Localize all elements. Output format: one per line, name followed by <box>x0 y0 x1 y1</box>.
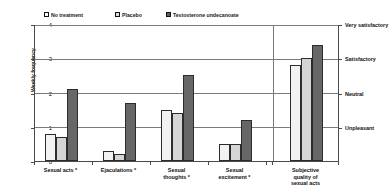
chart-legend: No treatment Placebo Testosterone undeca… <box>40 8 330 21</box>
bar-4-0 <box>290 65 301 161</box>
secondary-tick-mark-4 <box>338 25 342 26</box>
secondary-tick-label-4: Very satisfactory <box>345 22 392 28</box>
testosterone-swatch <box>166 12 171 17</box>
x-axis-label-4: Subjectivequality ofsexual acts <box>272 167 340 187</box>
placebo-swatch <box>115 12 120 17</box>
secondary-tick-mark-3 <box>338 59 342 60</box>
legend-label-placebo: Placebo <box>122 12 142 18</box>
x-label-line: Sexual <box>201 167 269 174</box>
plot-area <box>34 25 338 162</box>
bar-0-0 <box>45 134 56 161</box>
secondary-tick-label-1: Unpleasant <box>345 125 392 131</box>
bar-4-1 <box>301 58 312 161</box>
x-label-line: excitement * <box>201 174 269 181</box>
legend-label-no-treatment: No treatment <box>51 12 83 18</box>
bar-2-0 <box>161 110 172 161</box>
secondary-tick-label-2: Neutral <box>345 91 392 97</box>
bar-3-1 <box>230 144 241 161</box>
x-label-line: Subjective <box>272 167 340 174</box>
legend-label-testosterone: Testosterone undecanoate <box>173 12 239 18</box>
x-label-line: sexual acts <box>272 180 340 187</box>
secondary-tick-mark-2 <box>338 94 342 95</box>
x-label-line: quality of <box>272 174 340 181</box>
legend-item-testosterone: Testosterone undecanoate <box>166 12 239 18</box>
bar-1-1 <box>114 154 125 161</box>
secondary-tick-mark-1 <box>338 128 342 129</box>
bar-group-4 <box>290 25 323 161</box>
legend-item-placebo: Placebo <box>115 12 142 18</box>
bar-group-3 <box>219 25 252 161</box>
bar-0-1 <box>56 137 67 161</box>
bar-0-2 <box>67 89 78 161</box>
bar-group-1 <box>103 25 136 161</box>
bar-2-1 <box>172 113 183 161</box>
secondary-axis: Very satisfactorySatisfactoryNeutralUnpl… <box>338 25 392 162</box>
x-tick-mark-6 <box>338 162 339 165</box>
x-axis-label-3: Sexualexcitement * <box>201 167 269 180</box>
bar-3-2 <box>241 120 252 161</box>
bar-group-0 <box>45 25 78 161</box>
bar-4-2 <box>312 45 323 161</box>
no-treatment-swatch <box>44 12 49 17</box>
bar-group-2 <box>161 25 194 161</box>
bar-2-2 <box>183 75 194 161</box>
bar-groups <box>35 25 338 161</box>
secondary-tick-label-3: Satisfactory <box>345 56 392 62</box>
bar-chart: No treatment Placebo Testosterone undeca… <box>0 0 392 196</box>
bar-3-0 <box>219 144 230 161</box>
legend-item-no-treatment: No treatment <box>44 12 83 18</box>
x-axis-labels: Sexual acts *Ejaculations *Sexualthought… <box>34 165 338 195</box>
bar-1-2 <box>125 103 136 161</box>
bar-1-0 <box>103 151 114 161</box>
